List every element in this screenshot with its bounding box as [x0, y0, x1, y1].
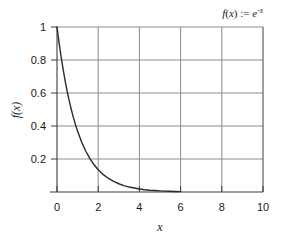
chart-figure: 1 0.8 0.6 0.4 0.2 0 2 4 6 8 10 x f(x) f(…	[0, 0, 282, 241]
x-tick-label-8: 8	[219, 201, 225, 213]
annotation-assign: :=	[238, 7, 253, 19]
y-axis-title: f(x)	[9, 102, 23, 119]
x-tick-label-2: 2	[95, 201, 101, 213]
y-tick-label-0.4: 0.4	[31, 120, 46, 132]
y-tick-label-0.8: 0.8	[31, 54, 46, 66]
x-tick-labels: 0 2 4 6 8 10	[54, 201, 269, 213]
function-definition-annotation: f(x) := e-x	[222, 6, 263, 20]
plot-background	[57, 27, 263, 192]
exponential-decay-chart: 1 0.8 0.6 0.4 0.2 0 2 4 6 8 10 x f(x) f(…	[0, 0, 282, 241]
x-tick-label-6: 6	[178, 201, 184, 213]
y-tick-labels: 1 0.8 0.6 0.4 0.2	[31, 21, 46, 165]
x-tick-label-10: 10	[257, 201, 269, 213]
x-axis-title: x	[156, 220, 163, 234]
annotation-exponent: -x	[257, 6, 263, 15]
y-tick-label-1: 1	[40, 21, 46, 33]
y-axis-ticks	[51, 27, 57, 159]
y-tick-label-0.2: 0.2	[31, 153, 46, 165]
x-tick-label-4: 4	[136, 201, 142, 213]
y-tick-label-0.6: 0.6	[31, 87, 46, 99]
x-tick-label-0: 0	[54, 201, 60, 213]
